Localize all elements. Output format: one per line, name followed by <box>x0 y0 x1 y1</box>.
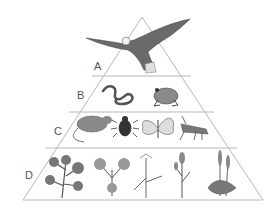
level-label-b: B <box>77 90 84 101</box>
beetle-icon <box>111 116 139 137</box>
grass-icon <box>134 154 162 198</box>
flowering-plant-icon <box>174 152 190 198</box>
leafy-plant-icon <box>45 155 84 198</box>
frog-icon <box>154 88 178 106</box>
clover-plant-icon <box>94 158 130 196</box>
plantain-icon <box>208 150 236 196</box>
butterfly-icon <box>142 118 173 138</box>
rat-icon <box>73 116 112 142</box>
eagle-icon <box>86 19 190 73</box>
food-pyramid-diagram: A B C D <box>0 0 279 210</box>
grasshopper-icon <box>180 116 208 140</box>
level-label-c: C <box>54 126 62 137</box>
level-label-d: D <box>25 170 33 181</box>
snake-icon <box>103 86 132 104</box>
level-label-a: A <box>94 61 101 72</box>
pyramid-graphic <box>0 0 279 210</box>
